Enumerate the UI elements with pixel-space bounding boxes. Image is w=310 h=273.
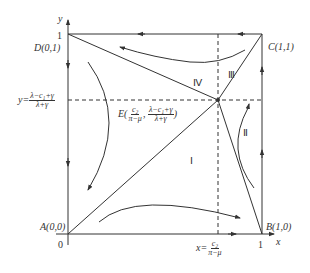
region-i: Ⅰ xyxy=(190,156,193,166)
point-b: B(1,0) xyxy=(266,222,291,232)
trajectory-left xyxy=(88,62,109,190)
point-a: A(0,0) xyxy=(40,222,65,232)
point-c: C(1,1) xyxy=(268,42,294,52)
equilibrium-e xyxy=(216,98,220,102)
phase-diagram xyxy=(0,0,310,273)
x-guide-label: x=c₂π−μ xyxy=(196,240,223,257)
x-axis-label: x xyxy=(276,237,280,247)
trajectory-top xyxy=(120,47,245,63)
y-tick-1: 1 xyxy=(57,31,62,41)
region-ii: Ⅱ xyxy=(243,128,248,138)
origin-label: 0 xyxy=(58,240,63,250)
y-guide-label: y=λ−c₁+γλ+γ xyxy=(18,92,55,109)
region-iv: Ⅳ xyxy=(193,78,202,88)
point-e: E(c₂π−μ, λ−c₁+γλ+γ) xyxy=(118,106,177,123)
x-tick-1: 1 xyxy=(258,240,263,250)
c-to-e xyxy=(218,34,262,100)
y-axis-label: y xyxy=(58,14,62,24)
d-to-e xyxy=(68,34,218,100)
point-d: D(0,1) xyxy=(34,43,60,53)
region-iii: Ⅲ xyxy=(228,70,235,80)
trajectory-right xyxy=(238,104,254,188)
trajectory-bottom xyxy=(99,205,240,222)
